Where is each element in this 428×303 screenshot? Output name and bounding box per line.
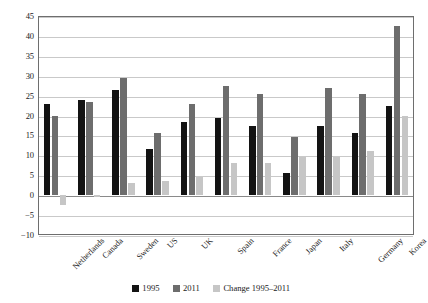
y-tick-label-5: 5 [4,171,34,180]
x-axis-labels: NetherlandsCanadaSwedenUSUKSpainFranceJa… [38,235,414,281]
gridline-10 [39,156,413,157]
y-tick-label--5: −5 [4,211,34,220]
y-tick-label-45: 45 [4,12,34,21]
gridline-20 [39,117,413,118]
legend-item-1995[interactable]: 1995 [132,284,160,293]
x-tick-label-korea: Korea [408,237,428,257]
gridline--5 [39,216,413,217]
legend-label: 1995 [142,284,159,293]
legend-item-2011[interactable]: 2011 [173,284,200,293]
gridline-45 [39,17,413,18]
legend-label: 2011 [183,284,200,293]
gridline-15 [39,136,413,137]
x-tick-label-germany: Germany [377,237,405,265]
legend-swatch-icon [132,285,139,292]
y-tick-label-20: 20 [4,111,34,120]
legend-label: Change 1995–2011 [223,284,290,293]
x-tick-label-canada: Canada [102,237,126,261]
gridline-5 [39,176,413,177]
y-tick-label-40: 40 [4,32,34,41]
y-tick-label--10: −10 [4,231,34,240]
y-axis-labels: −10−5051015202530354045 [0,16,34,235]
gridline-40 [39,37,413,38]
x-tick-label-france: France [272,237,294,259]
gridline-25 [39,97,413,98]
x-tick-label-sweden: Sweden [136,237,161,262]
y-tick-label-15: 15 [4,131,34,140]
gridline-35 [39,57,413,58]
y-tick-label-30: 30 [4,71,34,80]
gridline-0 [39,196,413,197]
x-tick-label-italy: Italy [338,237,355,254]
legend-item-change-1995-2011[interactable]: Change 1995–2011 [213,284,290,293]
gridline-30 [39,77,413,78]
x-tick-label-us: US [166,237,180,251]
x-tick-label-uk: UK [200,237,215,252]
legend-swatch-icon [213,285,220,292]
plot-area [38,16,414,235]
x-tick-label-spain: Spain [237,237,256,256]
legend-swatch-icon [173,285,180,292]
y-tick-label-10: 10 [4,151,34,160]
chart-legend: 19952011Change 1995–2011 [0,284,422,293]
y-tick-label-0: 0 [4,191,34,200]
y-tick-label-35: 35 [4,52,34,61]
x-tick-label-japan: Japan [305,237,324,256]
y-tick-label-25: 25 [4,91,34,100]
